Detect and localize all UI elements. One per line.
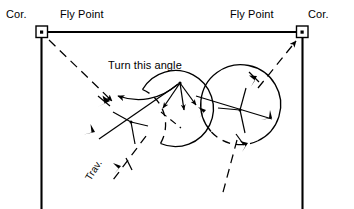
left-station-arc-solid: [143, 71, 214, 147]
right-station-tick-bottom: [236, 134, 244, 145]
left-station-spoke-c: [131, 122, 135, 144]
fly-point-label-right: Fly Point: [230, 8, 274, 21]
left-station-arrow-bottom-icon: [113, 163, 121, 174]
corner-marker-left-group: [36, 26, 48, 38]
right-station-arc-dashed: [211, 132, 258, 145]
sight-line-right-station-to-corner: [258, 41, 296, 88]
traverse-dashed-line-mid: [161, 112, 181, 128]
corner-monument-dot-right-icon: [301, 31, 304, 34]
left-station-arrow-left-icon: [84, 124, 95, 135]
traverse-dashed-line-left: [110, 136, 146, 184]
diagram-canvas: [0, 0, 354, 209]
right-station-tick-upper: [249, 72, 259, 82]
angle-vertex-group: [163, 81, 196, 110]
left-station-spoke-b: [131, 122, 148, 126]
right-station-spoke-c: [240, 110, 245, 133]
right-station-spoke-a: [240, 88, 246, 110]
sight-line-left-group: [49, 40, 112, 101]
right-station-chord: [196, 96, 272, 119]
traverse-lines-group: [110, 112, 237, 196]
corner-marker-right-group: [297, 26, 309, 38]
turn-this-angle-label: Turn this angle: [108, 59, 182, 72]
left-station-tick-bottom: [126, 158, 132, 170]
left-angle-station-group: [84, 71, 213, 174]
right-angle-station-group: [196, 65, 281, 152]
vertex-ray-left-down: [163, 83, 180, 108]
corner-label-right: Cor.: [308, 8, 329, 21]
surveying-traverse-diagram: Cor. Fly Point Fly Point Cor. Turn this …: [0, 0, 354, 209]
traverse-dashed-line-right: [222, 140, 237, 196]
fly-point-label-left: Fly Point: [60, 8, 104, 21]
corner-monument-dot-left-icon: [40, 31, 43, 34]
sight-line-right-group: [258, 41, 296, 88]
right-station-arrow-upper-icon: [249, 76, 257, 87]
right-station-arrow-bottom-icon: [240, 141, 248, 152]
sight-line-left-corner-to-station: [49, 40, 112, 101]
corner-label-left: Cor.: [6, 8, 27, 21]
left-station-spoke-a: [113, 112, 131, 122]
